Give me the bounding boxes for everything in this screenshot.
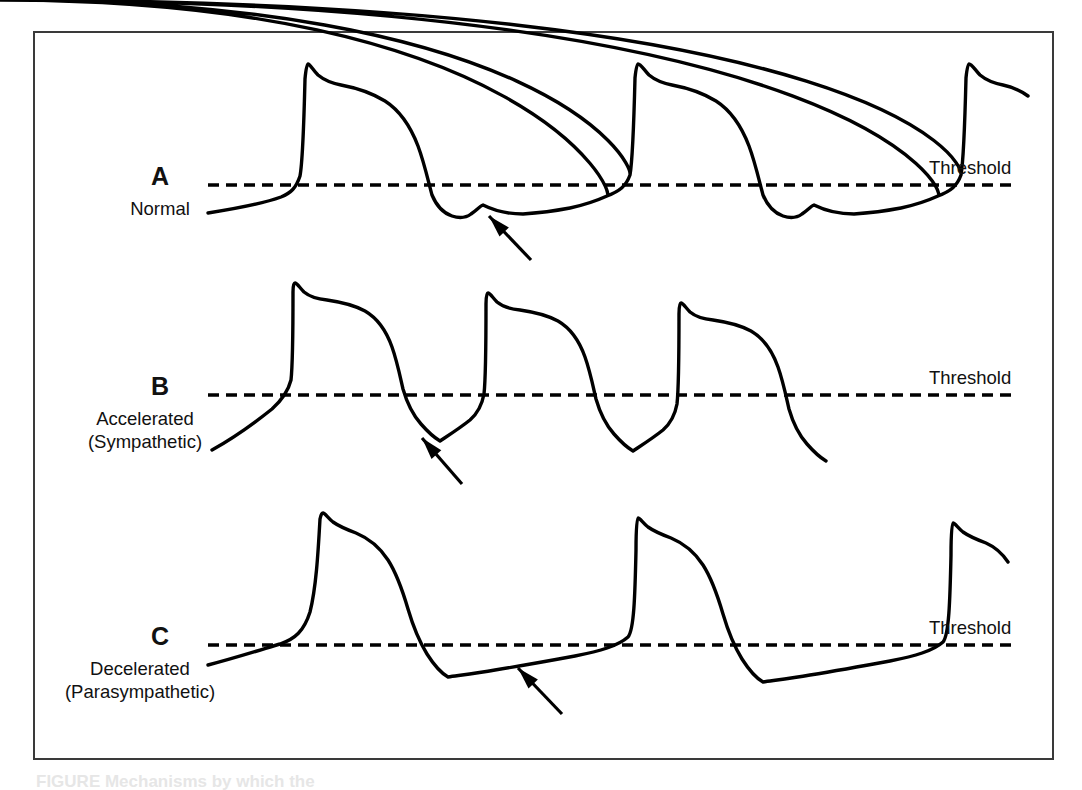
figure-bottom-caption: FIGURE Mechanisms by which the	[36, 772, 315, 790]
panel-caption-b-line2: (Sympathetic)	[30, 430, 260, 453]
pacemaker-trace-b	[212, 283, 826, 461]
panel-letter-c: C	[80, 622, 240, 651]
panel-c-graphics	[208, 513, 1014, 714]
pacemaker-trace-c	[208, 513, 1008, 682]
threshold-label-b: Threshold	[929, 367, 1011, 389]
panel-letter-a: A	[80, 162, 240, 191]
panel-letter-b: B	[80, 372, 240, 401]
panel-caption-b: Accelerated (Sympathetic)	[30, 407, 260, 453]
panel-b-graphics	[208, 283, 1014, 484]
panel-caption-c-line1: Decelerated	[25, 657, 255, 680]
figure-root: A Normal Threshold B Accelerated (Sympat…	[0, 0, 1082, 790]
panel-caption-a: Normal	[45, 197, 275, 220]
panel-caption-c-line2: (Parasympathetic)	[25, 680, 255, 703]
threshold-label-c: Threshold	[929, 617, 1011, 639]
panel-caption-b-line1: Accelerated	[30, 407, 260, 430]
panel-a-graphics	[0, 0, 1028, 260]
panel-caption-c: Decelerated (Parasympathetic)	[25, 657, 255, 703]
threshold-label-a: Threshold	[929, 157, 1011, 179]
